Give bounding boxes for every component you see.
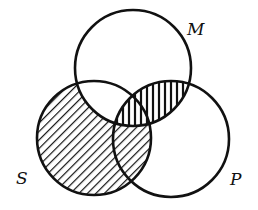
set-label-m: M bbox=[187, 21, 204, 38]
set-label-p: P bbox=[230, 171, 241, 188]
set-label-s: S bbox=[16, 170, 28, 187]
venn-diagram bbox=[0, 0, 258, 210]
